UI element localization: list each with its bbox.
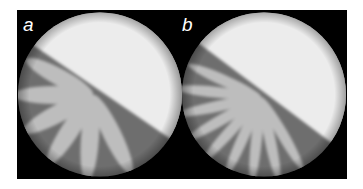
panel-b-image xyxy=(181,10,347,179)
panel-a: a xyxy=(17,10,182,179)
panel-label-a: a xyxy=(23,15,34,34)
panel-label-b: b xyxy=(182,15,193,34)
panel-b: b xyxy=(181,10,347,179)
panel-a-image xyxy=(17,10,182,179)
figure: a xyxy=(17,10,347,179)
